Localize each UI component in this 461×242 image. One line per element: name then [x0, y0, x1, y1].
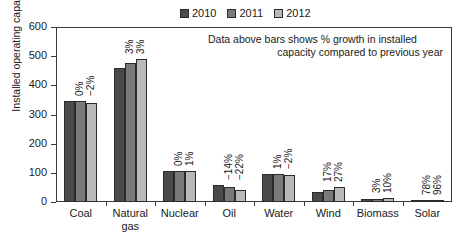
bar-group-bars — [155, 27, 205, 202]
bar-wind-2012[interactable] — [334, 187, 345, 202]
growth-label-text: −2% — [85, 76, 96, 96]
x-axis-tick-mark — [155, 202, 156, 206]
growth-label-text: 78% — [421, 175, 432, 195]
growth-label-text: 0% — [173, 151, 184, 165]
bar-coal-2011[interactable] — [75, 101, 86, 202]
growth-label-text: −2% — [283, 149, 294, 169]
bar-water-2011[interactable] — [273, 174, 284, 202]
x-axis-label-natural-gas: Naturalgas — [106, 207, 156, 233]
growth-label-text: 3% — [124, 40, 135, 54]
x-axis-label-line: Water — [254, 207, 304, 220]
x-axis-label-line: Nuclear — [155, 207, 205, 220]
y-axis-tick-label: 200 — [29, 137, 47, 150]
growth-label-text: 3% — [371, 179, 382, 193]
growth-label-text: 0% — [74, 82, 85, 96]
bar-group-bars — [56, 27, 106, 202]
growth-label-text: −14% — [223, 154, 234, 180]
x-axis-label-line: Wind — [304, 207, 354, 220]
legend-swatch-icon — [180, 9, 189, 18]
x-axis-label-nuclear: Nuclear — [155, 207, 205, 220]
bar-chart-figure: 201020112012 Installed operating capacit… — [0, 0, 461, 242]
legend-label: 2012 — [286, 8, 310, 19]
x-axis-label-line: Biomass — [353, 207, 403, 220]
legend-label: 2011 — [239, 8, 263, 19]
x-axis-tick-mark — [106, 202, 107, 206]
legend-entry-2010: 2010 — [180, 8, 216, 19]
bar-oil-2010[interactable] — [213, 185, 224, 203]
bar-oil-2011[interactable] — [224, 187, 235, 202]
growth-label-text: 96% — [432, 175, 443, 195]
legend-label: 2010 — [192, 8, 216, 19]
x-axis-label-line: gas — [106, 220, 156, 233]
x-axis-label-line: Oil — [205, 207, 255, 220]
x-axis-tick-mark — [205, 202, 206, 206]
y-axis-tick-label: 100 — [29, 166, 47, 179]
x-axis-label-oil: Oil — [205, 207, 255, 220]
legend-swatch-icon — [274, 9, 283, 18]
y-axis-title: Installed operating capacity (GW) — [10, 0, 22, 122]
y-axis-tick-label: 500 — [29, 49, 47, 62]
bar-natural-gas-2011[interactable] — [125, 63, 136, 202]
bar-water-2010[interactable] — [262, 174, 273, 202]
x-axis-label-line: Coal — [56, 207, 106, 220]
bar-coal-2010[interactable] — [64, 101, 75, 202]
growth-label-text: 1% — [272, 155, 283, 169]
x-axis-label-water: Water — [254, 207, 304, 220]
growth-label-text: 17% — [322, 162, 333, 182]
x-axis-tick-mark — [353, 202, 354, 206]
x-axis: CoalNaturalgasNuclearOilWaterWindBiomass… — [56, 202, 452, 238]
x-axis-tick-mark — [403, 202, 404, 206]
bar-group: 3%3% — [106, 27, 156, 202]
y-axis-tick-label: 400 — [29, 78, 47, 91]
growth-label-text: 3% — [135, 40, 146, 54]
x-axis-label-coal: Coal — [56, 207, 106, 220]
legend-entry-2011: 2011 — [227, 8, 263, 19]
bar-coal-2012[interactable] — [86, 103, 97, 202]
bar-oil-2012[interactable] — [235, 190, 246, 202]
chart-annotation: Data above bars shows % growth in instal… — [205, 31, 446, 61]
bar-natural-gas-2012[interactable] — [136, 59, 147, 202]
growth-label-text: 1% — [184, 151, 195, 165]
annotation-line-2: capacity compared to previous year — [208, 46, 443, 59]
y-axis-tick-label: 600 — [29, 20, 47, 33]
chart-legend: 201020112012 — [180, 6, 311, 21]
bar-wind-2011[interactable] — [323, 190, 334, 202]
bar-nuclear-2010[interactable] — [163, 171, 174, 202]
x-axis-label-wind: Wind — [304, 207, 354, 220]
x-axis-label-line: Natural — [106, 207, 156, 220]
x-axis-tick-mark — [254, 202, 255, 206]
bar-group: 0%1% — [155, 27, 205, 202]
x-axis-label-line: Solar — [403, 207, 453, 220]
y-axis-tick-label: 300 — [29, 108, 47, 121]
growth-label-text: −22% — [234, 154, 245, 180]
bar-water-2012[interactable] — [284, 175, 295, 202]
x-axis-tick-mark — [304, 202, 305, 206]
annotation-line-1: Data above bars shows % growth in instal… — [208, 33, 443, 46]
bar-natural-gas-2010[interactable] — [114, 68, 125, 202]
legend-swatch-icon — [227, 9, 236, 18]
bar-nuclear-2012[interactable] — [185, 171, 196, 203]
y-axis-tick-label: 0 — [41, 195, 47, 208]
x-axis-label-biomass: Biomass — [353, 207, 403, 220]
bar-wind-2010[interactable] — [312, 192, 323, 202]
growth-label-text: 27% — [333, 162, 344, 182]
bar-group: 0%−2% — [56, 27, 106, 202]
legend-entry-2012: 2012 — [274, 8, 310, 19]
bar-nuclear-2011[interactable] — [174, 171, 185, 202]
x-axis-label-solar: Solar — [403, 207, 453, 220]
growth-label-text: 10% — [382, 173, 393, 193]
